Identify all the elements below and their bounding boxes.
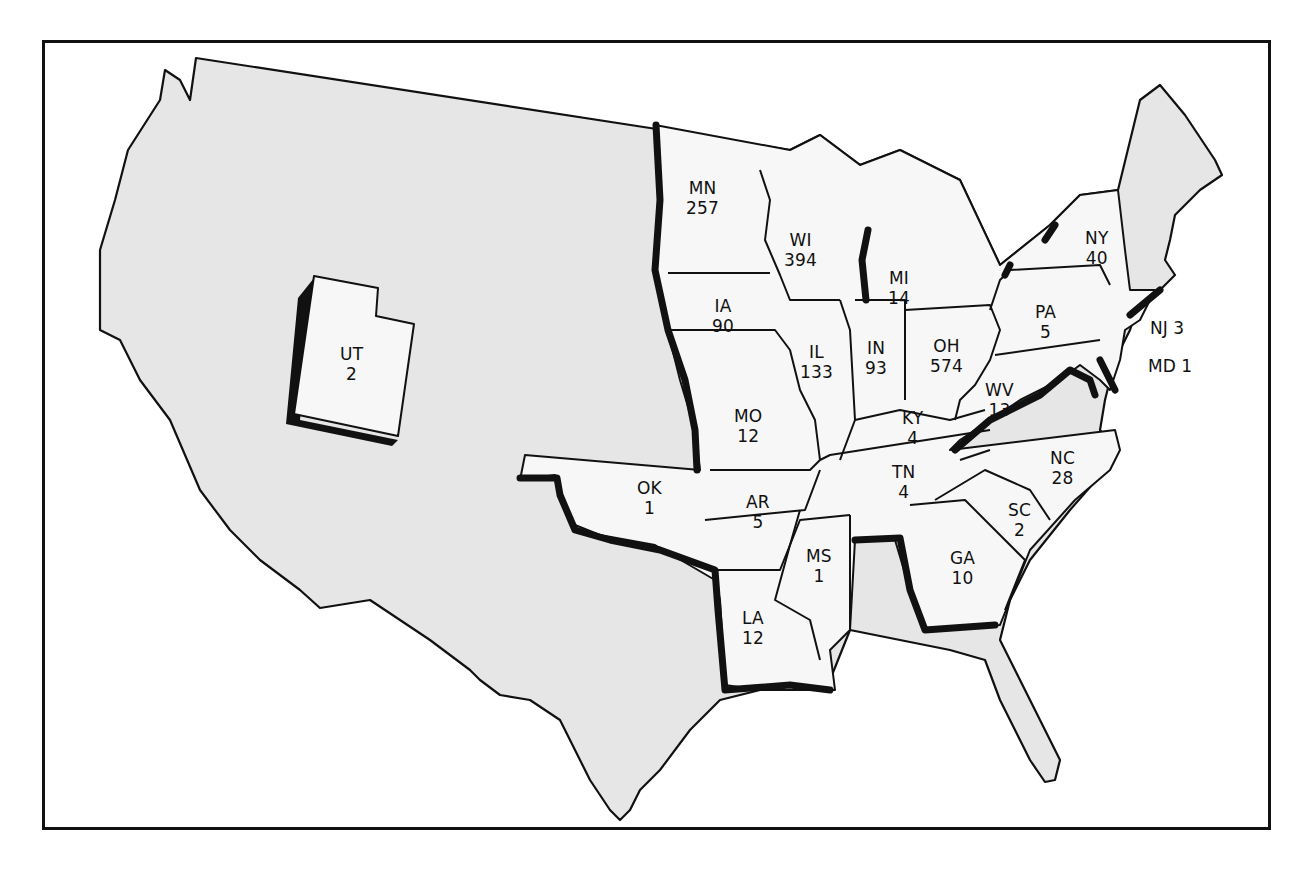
state-label-il: IL133	[800, 342, 833, 382]
lake-erie	[1005, 265, 1010, 275]
side-label-md: MD 1	[1148, 356, 1192, 376]
state-label-ms: MS1	[806, 546, 832, 586]
state-label-in: IN93	[865, 338, 887, 378]
state-label-ar: AR5	[746, 492, 770, 532]
state-label-ok: OK1	[637, 478, 662, 518]
us-map	[0, 0, 1307, 874]
state-label-oh: OH574	[930, 336, 963, 376]
side-label-nj: NJ 3	[1150, 318, 1184, 338]
state-label-mo: MO12	[734, 406, 762, 446]
state-label-sc: SC2	[1008, 500, 1031, 540]
state-label-mi: MI14	[888, 268, 910, 308]
state-label-ky: KY4	[902, 408, 923, 448]
state-label-wi: WI394	[784, 230, 817, 270]
state-label-mn: MN257	[686, 178, 719, 218]
state-label-ga: GA10	[950, 548, 975, 588]
state-label-pa: PA5	[1035, 302, 1056, 342]
state-label-tn: TN4	[892, 462, 916, 502]
state-label-nc: NC28	[1050, 448, 1075, 488]
state-label-ut: UT2	[340, 344, 363, 384]
state-label-wv: WV13	[985, 380, 1014, 420]
state-label-la: LA12	[742, 608, 764, 648]
state-label-ny: NY40	[1085, 228, 1109, 268]
state-label-ia: IA90	[712, 296, 734, 336]
